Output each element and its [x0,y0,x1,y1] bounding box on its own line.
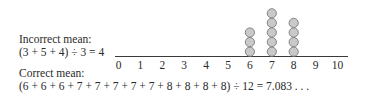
x-tick-label: 0 [116,59,122,71]
x-tick-label: 9 [313,59,319,71]
data-dot [245,28,254,37]
data-dot [267,47,276,56]
x-tick-label: 3 [181,59,187,71]
dot-plot: 012345678910 [0,0,366,97]
data-dot [267,18,276,27]
x-tick-label: 4 [203,59,209,71]
x-tick-label: 6 [247,59,253,71]
x-tick-label: 8 [291,59,297,71]
data-dot [289,38,298,47]
x-tick-label: 10 [332,59,344,71]
data-dots [245,9,298,57]
data-dot [245,47,254,56]
data-dot [267,9,276,18]
x-tick-label: 2 [159,59,165,71]
data-dot [267,28,276,37]
x-tick-label: 5 [225,59,231,71]
x-tick-label: 7 [269,59,275,71]
x-axis-tick-labels: 012345678910 [116,59,344,71]
data-dot [267,38,276,47]
data-dot [289,18,298,27]
data-dot [245,38,254,47]
x-tick-label: 1 [138,59,144,71]
data-dot [289,47,298,56]
data-dot [289,28,298,37]
